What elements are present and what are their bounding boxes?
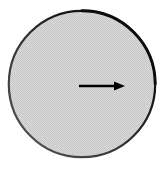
figure-container: Shaded circle with rightward arrow A lar… <box>0 0 166 170</box>
circle-arrow-diagram <box>0 0 166 170</box>
